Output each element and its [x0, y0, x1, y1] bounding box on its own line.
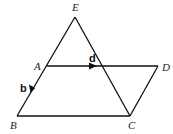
vector-label-b: b	[20, 82, 27, 94]
diagram-svg: E A D B C d b	[0, 0, 173, 134]
geometry-diagram: E A D B C d b	[0, 0, 173, 134]
point-label-E: E	[71, 1, 79, 13]
vector-label-d: d	[89, 52, 96, 64]
point-label-C: C	[128, 119, 136, 131]
point-label-A: A	[33, 60, 41, 72]
point-label-D: D	[161, 61, 170, 73]
segment-CD	[130, 66, 158, 116]
point-label-B: B	[10, 119, 17, 131]
